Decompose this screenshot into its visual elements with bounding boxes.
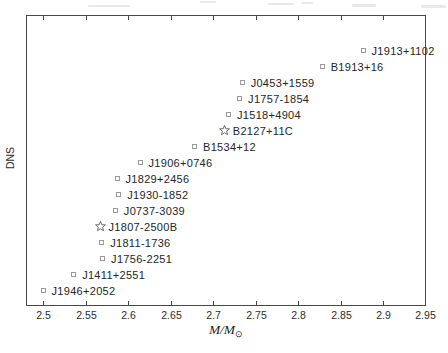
square-marker-icon <box>113 208 118 213</box>
x-tick-top <box>43 16 44 20</box>
square-marker-icon <box>320 64 325 69</box>
square-marker-icon <box>138 160 143 165</box>
x-tick-label: 2.65 <box>161 309 181 321</box>
pulsar-label: J0453+1559 <box>251 77 315 89</box>
square-marker-icon <box>115 176 120 181</box>
square-marker-icon <box>226 112 231 117</box>
cropped-text-remnant <box>268 3 294 5</box>
star-marker-icon <box>219 125 230 136</box>
square-marker-icon <box>240 80 245 85</box>
x-tick-label: 2.95 <box>415 309 435 321</box>
x-tick-top <box>298 16 299 20</box>
x-tick-bottom <box>213 301 214 305</box>
pulsar-label: B1913+16 <box>331 61 384 73</box>
square-marker-icon <box>116 192 121 197</box>
pulsar-label: J1807-2500B <box>109 221 178 233</box>
x-tick-label: 2.55 <box>76 309 96 321</box>
x-tick-bottom <box>43 301 44 305</box>
x-tick-label: 2.7 <box>206 309 221 321</box>
x-tick-bottom <box>256 301 257 305</box>
plot-area <box>26 15 426 306</box>
pulsar-label: J1829+2456 <box>126 173 190 185</box>
pulsar-label: J1518+4904 <box>237 109 301 121</box>
cropped-text-remnant <box>88 5 130 7</box>
square-marker-icon <box>237 96 242 101</box>
pulsar-label: J0737-3039 <box>124 205 185 217</box>
x-tick-bottom <box>171 301 172 305</box>
cropped-text-remnant <box>301 2 313 4</box>
x-tick-label: 2.85 <box>331 309 351 321</box>
star-marker-icon <box>95 221 106 232</box>
x-tick-top <box>425 16 426 20</box>
x-tick-label: 2.8 <box>291 309 306 321</box>
figure-canvas: 2.52.552.62.652.72.752.82.852.92.95 J194… <box>0 0 448 353</box>
square-marker-icon <box>41 288 46 293</box>
sun-symbol-icon: ⊙ <box>235 329 243 339</box>
x-tick-top <box>86 16 87 20</box>
pulsar-label: J1756-2251 <box>111 253 172 265</box>
x-tick-top <box>213 16 214 20</box>
x-tick-bottom <box>341 301 342 305</box>
pulsar-label: J1411+2551 <box>82 269 145 281</box>
x-tick-bottom <box>128 301 129 305</box>
x-tick-top <box>341 16 342 20</box>
x-axis-title: M/M⊙ <box>26 322 426 339</box>
x-tick-bottom <box>383 301 384 305</box>
pulsar-label: J1930-1852 <box>127 189 188 201</box>
square-marker-icon <box>361 48 366 53</box>
x-tick-label: 2.6 <box>121 309 136 321</box>
pulsar-label: J1913+1102 <box>372 45 435 57</box>
x-tick-bottom <box>86 301 87 305</box>
cropped-text-remnant <box>421 5 446 8</box>
pulsar-label: B1534+12 <box>203 141 256 153</box>
y-axis-title: DNS <box>4 147 16 169</box>
x-tick-top <box>256 16 257 20</box>
pulsar-label: J1906+0746 <box>149 157 213 169</box>
pulsar-label: B2127+11C <box>233 125 293 137</box>
x-axis-title-main: M/M <box>209 322 235 337</box>
x-tick-top <box>383 16 384 20</box>
x-tick-bottom <box>298 301 299 305</box>
cropped-text-remnant <box>200 1 216 3</box>
x-tick-bottom <box>425 301 426 305</box>
cropped-text-remnant <box>352 4 376 7</box>
square-marker-icon <box>71 272 76 277</box>
pulsar-label: J1811-1736 <box>110 237 170 249</box>
x-tick-label: 2.5 <box>36 309 51 321</box>
pulsar-label: J1757-1854 <box>248 93 309 105</box>
square-marker-icon <box>99 240 104 245</box>
pulsar-label: J1946+2052 <box>52 285 116 297</box>
x-tick-top <box>171 16 172 20</box>
square-marker-icon <box>192 144 197 149</box>
x-tick-top <box>128 16 129 20</box>
square-marker-icon <box>100 256 105 261</box>
x-tick-label: 2.9 <box>376 309 391 321</box>
x-tick-label: 2.75 <box>246 309 266 321</box>
